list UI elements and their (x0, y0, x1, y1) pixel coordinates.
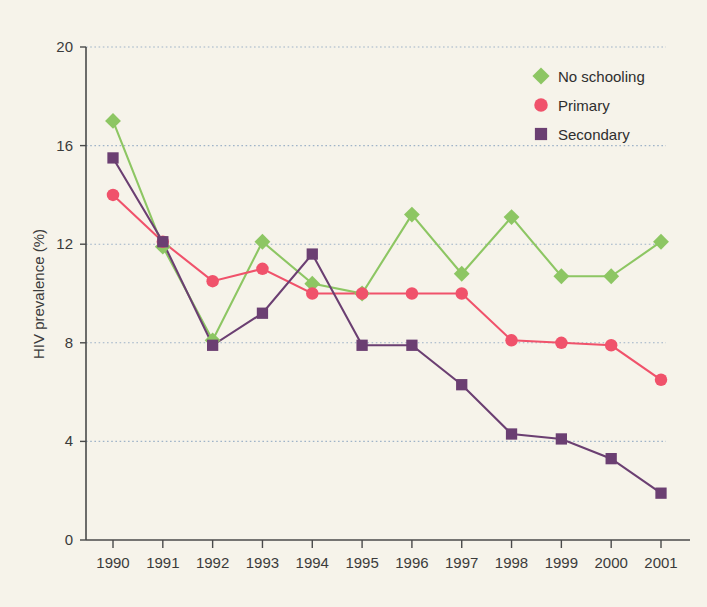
x-tick-label: 1993 (246, 554, 279, 571)
y-tick-label: 4 (65, 432, 73, 449)
data-point (506, 428, 517, 439)
x-tick-label: 1994 (296, 554, 329, 571)
data-point (505, 334, 517, 346)
y-tick-label: 8 (65, 334, 73, 351)
data-point (555, 337, 567, 349)
legend-label: Primary (558, 97, 610, 114)
data-point (206, 275, 218, 287)
legend-label: Secondary (558, 126, 630, 143)
legend-marker-circle (534, 98, 548, 112)
x-tick-label: 1997 (445, 554, 478, 571)
chart-figure: 048121620 199019911992199319941995199619… (0, 0, 707, 607)
x-tick-label: 1999 (545, 554, 578, 571)
data-point (605, 339, 617, 351)
data-point (556, 433, 567, 444)
x-tick-label: 1995 (345, 554, 378, 571)
x-tick-label: 1998 (495, 554, 528, 571)
legend-label: No schooling (558, 68, 645, 85)
data-point (207, 340, 218, 351)
y-tick-label: 20 (56, 38, 73, 55)
data-point (406, 287, 418, 299)
data-point (455, 287, 467, 299)
data-point (655, 374, 667, 386)
hiv-prevalence-line-chart: 048121620 199019911992199319941995199619… (0, 0, 707, 607)
x-tick-label: 1991 (146, 554, 179, 571)
data-point (456, 379, 467, 390)
y-axis-title: HIV prevalence (%) (30, 229, 47, 359)
y-tick-label: 16 (56, 137, 73, 154)
data-point (257, 308, 268, 319)
data-point (655, 488, 666, 499)
x-tick-label: 1992 (196, 554, 229, 571)
x-tick-label: 2001 (644, 554, 677, 571)
data-point (406, 340, 417, 351)
data-point (157, 236, 168, 247)
x-tick-label: 1990 (96, 554, 129, 571)
data-point (107, 152, 118, 163)
data-point (356, 287, 368, 299)
y-tick-label: 12 (56, 235, 73, 252)
data-point (307, 248, 318, 259)
x-tick-label: 1996 (395, 554, 428, 571)
data-point (306, 287, 318, 299)
data-point (356, 340, 367, 351)
legend-marker-square (535, 128, 547, 140)
x-tick-label: 2000 (594, 554, 627, 571)
y-tick-label: 0 (65, 531, 73, 548)
data-point (256, 263, 268, 275)
data-point (107, 189, 119, 201)
chart-background (0, 0, 707, 607)
data-point (606, 453, 617, 464)
